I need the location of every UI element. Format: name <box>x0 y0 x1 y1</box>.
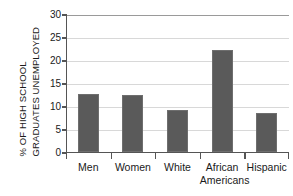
gridline-30 <box>66 15 289 16</box>
y-axis-title-line-1: % OF HIGH SCHOOL <box>18 61 28 156</box>
x-tick-mark-edge-0 <box>66 152 67 159</box>
gridline-20 <box>66 61 289 62</box>
bar-chart-figure: % OF HIGH SCHOOL GRADUATES UNEMPLOYED 05… <box>0 0 293 196</box>
bar-women <box>122 95 143 152</box>
y-tick-mark-10 <box>62 106 67 107</box>
y-tick-mark-30 <box>62 14 67 15</box>
y-tick-mark-25 <box>62 37 67 38</box>
y-tick-label-10: 10 <box>50 102 61 112</box>
x-label-line: Women <box>115 161 151 173</box>
x-label-line: Hispanic <box>247 161 287 173</box>
y-tick-mark-20 <box>62 60 67 61</box>
x-tick-mark-3 <box>200 152 201 159</box>
x-axis-label-white: White <box>155 161 200 174</box>
y-axis-title-line-2: GRADUATES UNEMPLOYED <box>31 26 41 156</box>
y-tick-label-5: 5 <box>55 125 61 135</box>
x-label-line: Americans <box>200 174 245 187</box>
y-tick-label-20: 20 <box>50 56 61 66</box>
y-tick-label-25: 25 <box>50 33 61 43</box>
x-axis-label-women: Women <box>111 161 156 174</box>
x-tick-mark-edge-1 <box>288 152 289 159</box>
bar-men <box>78 94 99 152</box>
x-label-line: Men <box>78 161 98 173</box>
plot-area <box>66 15 289 153</box>
y-tick-mark-5 <box>62 129 67 130</box>
y-tick-label-0: 0 <box>55 148 61 158</box>
x-axis-label-hispanic: Hispanic <box>244 161 289 174</box>
x-label-line: White <box>164 161 191 173</box>
gridline-15 <box>66 84 289 85</box>
x-axis-label-african-americans: AfricanAmericans <box>200 161 245 186</box>
x-tick-mark-1 <box>111 152 112 159</box>
y-tick-label-15: 15 <box>50 79 61 89</box>
x-tick-mark-2 <box>155 152 156 159</box>
bar-hispanic <box>256 113 277 152</box>
x-axis-category-labels: MenWomenWhiteAfricanAmericansHispanic <box>60 161 293 195</box>
x-tick-mark-4 <box>244 152 245 159</box>
y-tick-label-30: 30 <box>50 10 61 20</box>
bar-white <box>167 110 188 152</box>
x-axis-label-men: Men <box>66 161 111 174</box>
bar-african-americans <box>212 50 233 152</box>
x-label-line: African <box>206 161 239 173</box>
gridline-25 <box>66 38 289 39</box>
y-tick-mark-15 <box>62 83 67 84</box>
gridline-10 <box>66 107 289 108</box>
y-axis-tick-labels: 051015202530 <box>42 9 61 159</box>
